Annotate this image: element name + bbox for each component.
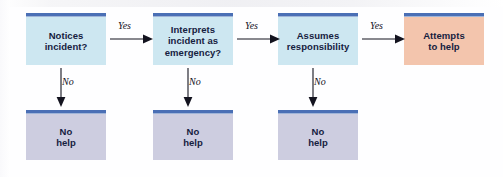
flowchart-diagram: Notices incident? Interprets incident as… <box>0 0 503 177</box>
edge-label-no-1: No <box>62 76 74 87</box>
edge-label-yes-2: Yes <box>245 20 258 31</box>
node-interprets-incident-as-emergency: Interprets incident as emergency? <box>153 13 233 65</box>
node-accent-bar <box>26 110 106 113</box>
arrow-yes-2-icon <box>237 34 281 44</box>
node-accent-bar <box>153 110 233 113</box>
node-label: No help <box>308 126 328 149</box>
edge-label-no-3: No <box>314 76 326 87</box>
arrow-no-1-icon <box>56 68 66 108</box>
node-assumes-responsibility: Assumes responsibility <box>278 13 358 65</box>
node-label: Interprets incident as emergency? <box>165 24 221 59</box>
node-label: No help <box>183 126 203 149</box>
node-accent-bar <box>404 13 484 16</box>
node-no-help-1: No help <box>26 110 106 160</box>
node-attempts-to-help: Attempts to help <box>404 13 484 65</box>
node-accent-bar <box>26 13 106 16</box>
arrow-yes-1-icon <box>110 34 154 44</box>
arrow-yes-3-icon <box>362 34 406 44</box>
node-accent-bar <box>153 13 233 16</box>
scan-artifact-left <box>0 0 10 177</box>
edge-label-no-2: No <box>189 76 201 87</box>
node-label: Notices incident? <box>45 30 88 53</box>
node-label: Assumes responsibility <box>287 30 349 53</box>
node-notices-incident: Notices incident? <box>26 13 106 65</box>
arrow-no-2-icon <box>183 68 193 108</box>
node-label: No help <box>56 126 76 149</box>
node-accent-bar <box>278 13 358 16</box>
arrow-no-3-icon <box>308 68 318 108</box>
scan-artifact-top <box>0 0 503 7</box>
node-no-help-2: No help <box>153 110 233 160</box>
node-no-help-3: No help <box>278 110 358 160</box>
node-accent-bar <box>278 110 358 113</box>
node-label: Attempts to help <box>423 30 465 53</box>
edge-label-yes-3: Yes <box>370 20 383 31</box>
edge-label-yes-1: Yes <box>118 20 131 31</box>
